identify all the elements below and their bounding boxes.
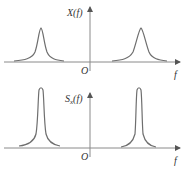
bottom-peak-right	[121, 88, 156, 147]
top-panel	[4, 7, 180, 71]
bottom-y-axis-label: Sx(f)	[65, 94, 83, 106]
top-origin-label: O	[81, 66, 88, 76]
bottom-y-label-tail: (f)	[73, 93, 82, 104]
top-y-axis-label: X(f)	[67, 8, 83, 18]
top-peak-left	[14, 28, 64, 61]
bottom-origin-label: O	[81, 152, 88, 162]
top-peak-right	[112, 28, 167, 61]
diagram-canvas	[0, 0, 186, 171]
top-x-axis-label: f	[174, 70, 177, 80]
bottom-panel	[4, 88, 180, 157]
bottom-x-axis-label: f	[174, 156, 177, 166]
bottom-peak-left	[19, 88, 60, 146]
